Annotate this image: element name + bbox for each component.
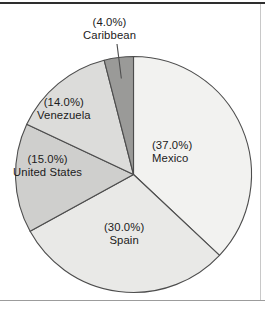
slice-name-venezuela: Venezuela — [37, 109, 91, 122]
slice-percent-venezuela: (14.0%) — [37, 96, 91, 109]
slice-percent-united-states: (15.0%) — [13, 153, 82, 166]
slice-name-caribbean: Caribbean — [83, 29, 136, 42]
slice-name-spain: Spain — [104, 234, 144, 247]
slice-percent-spain: (30.0%) — [104, 221, 144, 234]
slice-label-spain: (30.0%) Spain — [104, 221, 144, 247]
slice-name-united-states: United States — [13, 166, 82, 179]
slice-name-mexico: Mexico — [152, 152, 192, 165]
slice-label-caribbean: (4.0%) Caribbean — [83, 16, 136, 42]
slice-label-united-states: (15.0%) United States — [13, 153, 82, 179]
pie-chart-figure: (37.0%) Mexico (30.0%) Spain (15.0%) Uni… — [0, 0, 265, 315]
slice-percent-mexico: (37.0%) — [152, 139, 192, 152]
slice-label-mexico: (37.0%) Mexico — [152, 139, 192, 165]
slice-label-venezuela: (14.0%) Venezuela — [37, 96, 91, 122]
slice-percent-caribbean: (4.0%) — [83, 16, 136, 29]
